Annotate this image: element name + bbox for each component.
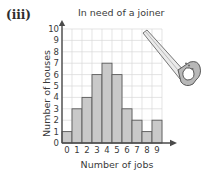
bar [82,97,92,143]
saw-rivet-2 [191,68,193,70]
saw-blade-highlight [146,32,184,77]
bar [122,109,132,143]
bar [132,120,142,143]
figure-panel: (iii) In need of a joiner Number of hous… [0,0,213,179]
bar [112,75,122,143]
bar [102,63,112,143]
bar [72,109,82,143]
chart-plot-area [0,0,213,179]
y-axis-arrowhead [59,20,65,26]
x-axis-arrowhead [170,140,177,146]
handsaw-illustration [143,30,201,86]
bar [62,132,72,143]
bar [92,75,102,143]
saw-rivet-3 [185,63,187,65]
bar-series [62,63,162,143]
bar [152,120,162,143]
bar [142,132,152,143]
saw-rivet-1 [188,64,190,66]
